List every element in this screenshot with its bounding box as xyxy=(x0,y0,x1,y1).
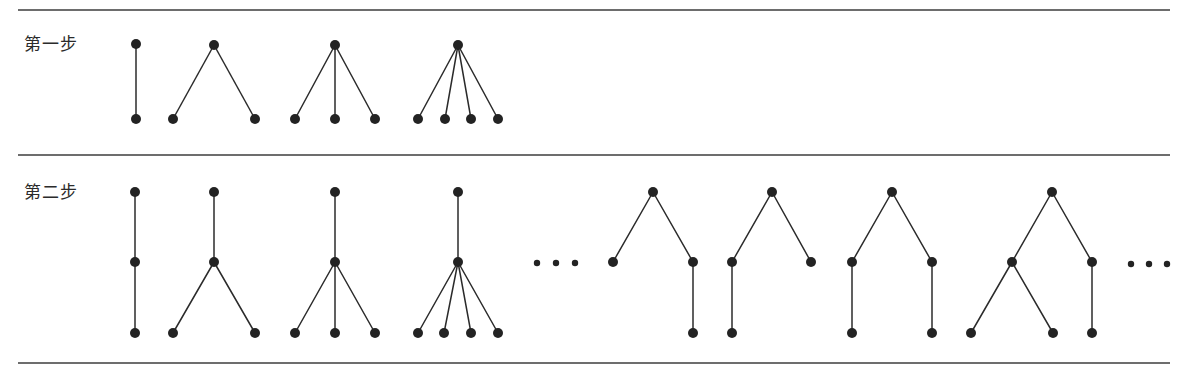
tree-2-5-node-2 xyxy=(688,257,698,267)
row-one-trees xyxy=(131,39,503,124)
tree-2-4-node-1 xyxy=(453,257,463,267)
tree-2-4 xyxy=(413,187,503,338)
tree-2-4-node-4 xyxy=(466,328,476,338)
tree-2-2-node-2 xyxy=(168,328,178,338)
ellipsis-middle-dot-2 xyxy=(572,260,578,266)
tree-1-1-node-1 xyxy=(131,114,141,124)
tree-1-4-node-4 xyxy=(493,114,503,124)
tree-2-4-edge-2 xyxy=(444,262,458,333)
tree-2-3-node-2 xyxy=(290,328,300,338)
tree-2-7-node-4 xyxy=(927,328,937,338)
row-two-trees xyxy=(130,187,1097,338)
tree-2-2-node-0 xyxy=(209,187,219,197)
tree-2-7-edge-1 xyxy=(892,192,932,262)
tree-2-3-node-0 xyxy=(330,187,340,197)
tree-2-1-node-1 xyxy=(130,257,140,267)
tree-2-2-node-1 xyxy=(209,257,219,267)
tree-1-3-node-3 xyxy=(370,114,380,124)
ellipsis-right-dot-1 xyxy=(1146,261,1152,267)
tree-2-4-node-0 xyxy=(453,187,463,197)
tree-2-7-node-0 xyxy=(887,187,897,197)
tree-2-6-node-0 xyxy=(767,187,777,197)
tree-2-8-node-4 xyxy=(1048,328,1058,338)
tree-2-8-node-2 xyxy=(1087,257,1097,267)
tree-enumeration-figure: 第一步 第二步 xyxy=(0,0,1197,379)
tree-2-3-node-4 xyxy=(370,328,380,338)
ellipsis-middle-dot-0 xyxy=(534,260,540,266)
tree-2-7-node-2 xyxy=(927,257,937,267)
tree-1-3-node-0 xyxy=(330,40,340,50)
ellipsis-middle-dot-1 xyxy=(553,260,559,266)
tree-2-6-edge-1 xyxy=(772,192,811,262)
tree-2-2 xyxy=(168,187,260,338)
tree-1-3-node-2 xyxy=(330,114,340,124)
tree-2-4-node-2 xyxy=(413,328,423,338)
tree-2-1-node-2 xyxy=(130,328,140,338)
tree-2-3-edge-1 xyxy=(295,262,335,333)
tree-2-8-node-0 xyxy=(1047,187,1057,197)
tree-1-1-node-0 xyxy=(131,39,141,49)
ellipsis-middle xyxy=(534,260,578,266)
tree-1-1 xyxy=(131,39,141,124)
tree-1-4-node-3 xyxy=(466,114,476,124)
tree-2-5-node-1 xyxy=(608,257,618,267)
tree-2-8-edge-2 xyxy=(971,262,1012,333)
tree-1-3-node-1 xyxy=(290,114,300,124)
tree-2-8-node-1 xyxy=(1007,257,1017,267)
tree-2-1-node-0 xyxy=(130,187,140,197)
tree-2-4-node-3 xyxy=(439,328,449,338)
tree-1-2-edge-0 xyxy=(173,45,214,119)
tree-2-4-edge-1 xyxy=(418,262,458,333)
tree-2-6-node-3 xyxy=(727,328,737,338)
ellipsis-right xyxy=(1128,261,1170,267)
tree-2-3-edge-3 xyxy=(335,262,375,333)
tree-2-7-node-3 xyxy=(847,328,857,338)
tree-2-5-node-3 xyxy=(688,328,698,338)
tree-2-1 xyxy=(130,187,140,338)
tree-2-8 xyxy=(966,187,1097,338)
figure-canvas xyxy=(0,0,1197,379)
tree-2-3 xyxy=(290,187,380,338)
tree-2-3-node-1 xyxy=(330,257,340,267)
ellipsis-right-dot-2 xyxy=(1164,261,1170,267)
tree-1-4 xyxy=(413,40,503,124)
tree-2-6-node-1 xyxy=(727,257,737,267)
tree-2-5-node-0 xyxy=(648,187,658,197)
tree-2-5 xyxy=(608,187,698,338)
tree-1-2 xyxy=(168,40,260,124)
tree-2-3-node-3 xyxy=(330,328,340,338)
tree-2-5-edge-0 xyxy=(613,192,653,262)
tree-1-3-edge-2 xyxy=(335,45,375,119)
tree-2-6 xyxy=(727,187,816,338)
tree-1-2-edge-1 xyxy=(214,45,255,119)
tree-1-3-edge-0 xyxy=(295,45,335,119)
tree-2-5-edge-1 xyxy=(653,192,693,262)
tree-2-7-edge-0 xyxy=(852,192,892,262)
tree-1-4-node-1 xyxy=(413,114,423,124)
tree-1-4-node-2 xyxy=(440,114,450,124)
tree-2-6-node-2 xyxy=(806,257,816,267)
tree-2-8-edge-0 xyxy=(1012,192,1052,262)
tree-2-8-edge-3 xyxy=(1012,262,1053,333)
tree-2-8-node-3 xyxy=(966,328,976,338)
tree-2-7 xyxy=(847,187,937,338)
tree-2-2-edge-2 xyxy=(214,262,255,333)
tree-1-2-node-1 xyxy=(168,114,178,124)
ellipsis-right-dot-0 xyxy=(1128,261,1134,267)
tree-2-4-node-5 xyxy=(493,328,503,338)
tree-1-2-node-0 xyxy=(209,40,219,50)
tree-2-7-node-1 xyxy=(847,257,857,267)
tree-2-8-node-5 xyxy=(1087,328,1097,338)
horizontal-rules xyxy=(18,10,1170,363)
tree-1-4-node-0 xyxy=(453,40,463,50)
tree-2-8-edge-1 xyxy=(1052,192,1092,262)
tree-1-2-node-2 xyxy=(250,114,260,124)
tree-2-6-edge-0 xyxy=(732,192,772,262)
tree-2-2-node-3 xyxy=(250,328,260,338)
tree-1-3 xyxy=(290,40,380,124)
tree-2-2-edge-1 xyxy=(173,262,214,333)
